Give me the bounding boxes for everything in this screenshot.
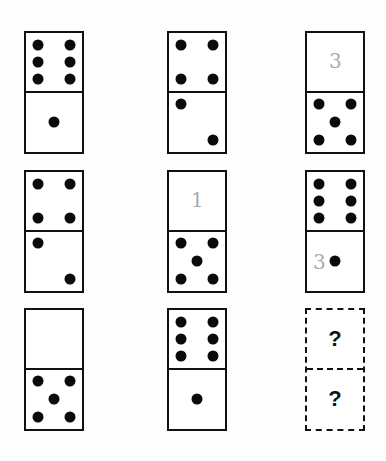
domino <box>167 31 227 154</box>
domino: 3 <box>305 31 365 154</box>
pip-dot <box>33 74 44 85</box>
domino-bottom-half <box>169 232 225 292</box>
domino <box>24 31 84 154</box>
domino-top-half: ? <box>307 310 363 370</box>
pip-dot <box>33 213 44 224</box>
pip-dot <box>345 195 356 206</box>
domino-top-half <box>169 310 225 370</box>
pip-dot <box>314 99 325 110</box>
pip-dot <box>176 351 187 362</box>
pip-dot <box>192 256 203 267</box>
domino-top-half <box>26 310 82 370</box>
pip-dot <box>64 56 75 67</box>
domino-top-half <box>169 33 225 93</box>
pip-dot <box>176 274 187 285</box>
missing-domino[interactable]: ?? <box>305 308 365 431</box>
domino-top-half <box>26 33 82 93</box>
pip-dot <box>33 56 44 67</box>
domino-top-half: 3 <box>307 33 363 93</box>
pip-dot <box>64 74 75 85</box>
domino-top-half <box>26 172 82 232</box>
handwritten-note: 3 <box>313 250 326 274</box>
handwritten-note: 3 <box>329 49 342 73</box>
pip-dot <box>49 394 60 405</box>
pip-dot <box>314 135 325 146</box>
pip-dot <box>33 39 44 50</box>
domino-bottom-half: ? <box>307 370 363 430</box>
pip-dot <box>345 135 356 146</box>
handwritten-note: 1 <box>191 188 204 212</box>
domino-top-half <box>307 172 363 232</box>
pip-dot <box>314 178 325 189</box>
domino <box>167 308 227 431</box>
question-mark: ? <box>328 326 341 352</box>
pip-dot <box>33 376 44 387</box>
domino-bottom-half <box>26 93 82 153</box>
domino: 1 <box>167 170 227 293</box>
domino <box>24 170 84 293</box>
pip-dot <box>176 316 187 327</box>
pip-dot <box>176 238 187 249</box>
domino-bottom-half <box>307 93 363 153</box>
pip-dot <box>64 39 75 50</box>
domino-top-half: 1 <box>169 172 225 232</box>
pip-dot <box>176 99 187 110</box>
pip-dot <box>207 39 218 50</box>
pip-dot <box>314 213 325 224</box>
question-mark: ? <box>328 386 341 412</box>
pip-dot <box>64 178 75 189</box>
domino <box>24 308 84 431</box>
domino-bottom-half <box>169 93 225 153</box>
pip-dot <box>207 351 218 362</box>
domino: 3 <box>305 170 365 293</box>
pip-dot <box>176 74 187 85</box>
pip-dot <box>207 74 218 85</box>
pip-dot <box>345 213 356 224</box>
pip-dot <box>64 213 75 224</box>
pip-dot <box>64 274 75 285</box>
pip-dot <box>49 117 60 128</box>
pip-dot <box>33 412 44 423</box>
pip-dot <box>314 195 325 206</box>
pip-dot <box>33 238 44 249</box>
pip-dot <box>207 333 218 344</box>
domino-bottom-half <box>169 370 225 430</box>
pip-dot <box>176 333 187 344</box>
pip-dot <box>192 394 203 405</box>
pip-dot <box>64 376 75 387</box>
pip-dot <box>345 99 356 110</box>
pip-dot <box>64 412 75 423</box>
pip-dot <box>176 39 187 50</box>
pip-dot <box>345 178 356 189</box>
pip-dot <box>207 274 218 285</box>
pip-dot <box>207 135 218 146</box>
pip-dot <box>330 256 341 267</box>
domino-bottom-half: 3 <box>307 232 363 292</box>
pip-dot <box>207 316 218 327</box>
pip-dot <box>207 238 218 249</box>
domino-bottom-half <box>26 370 82 430</box>
pip-dot <box>33 178 44 189</box>
pip-dot <box>330 117 341 128</box>
domino-bottom-half <box>26 232 82 292</box>
